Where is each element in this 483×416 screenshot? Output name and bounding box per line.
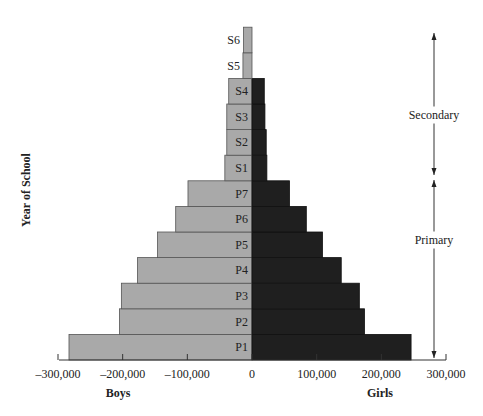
bar-girls-S2	[252, 130, 266, 156]
bar-boys-P2	[119, 309, 252, 335]
bar-girls-P5	[252, 232, 322, 258]
bar-girls-P1	[252, 334, 411, 360]
bar-girls-S1	[252, 155, 267, 181]
category-label: P5	[235, 237, 248, 252]
x-tick-label: –300,000	[36, 367, 81, 382]
x-tick-label: –100,000	[165, 367, 210, 382]
x-tick-label: 300,000	[427, 367, 466, 382]
bar-girls-P7	[252, 181, 290, 207]
bar-girls-P4	[252, 258, 341, 284]
group-label-secondary: Secondary	[409, 107, 460, 124]
category-label: S2	[235, 135, 248, 150]
bar-girls-P6	[252, 206, 306, 232]
category-label: P2	[235, 314, 248, 329]
group-arrows	[432, 33, 437, 358]
bar-boys-P1	[69, 334, 252, 360]
x-tick-label: 100,000	[297, 367, 336, 382]
bar-girls-P2	[252, 309, 365, 335]
bar-girls-S4	[252, 78, 264, 104]
category-label: S1	[235, 161, 248, 176]
category-label: S4	[235, 84, 248, 99]
category-label: S3	[235, 109, 248, 124]
category-label: S6	[227, 33, 240, 48]
x-tick-label: 200,000	[362, 367, 401, 382]
bar-girls-S3	[252, 104, 265, 130]
x-tick-label: –200,000	[100, 367, 145, 382]
bar-boys-S6	[244, 27, 252, 53]
category-label: S5	[227, 58, 240, 73]
category-label: P4	[235, 263, 248, 278]
category-label: P1	[235, 340, 248, 355]
group-label-primary: Primary	[415, 232, 454, 249]
category-label: P7	[235, 186, 248, 201]
x-tick-label: 0	[249, 367, 255, 382]
bar-boys-P3	[121, 283, 252, 309]
y-axis-label: Year of School	[19, 153, 34, 227]
girls-label: Girls	[367, 386, 393, 401]
category-label: P3	[235, 289, 248, 304]
category-label: P6	[235, 212, 248, 227]
bar-boys-S5	[243, 53, 252, 79]
boys-label: Boys	[106, 386, 131, 401]
bar-girls-P3	[252, 283, 359, 309]
